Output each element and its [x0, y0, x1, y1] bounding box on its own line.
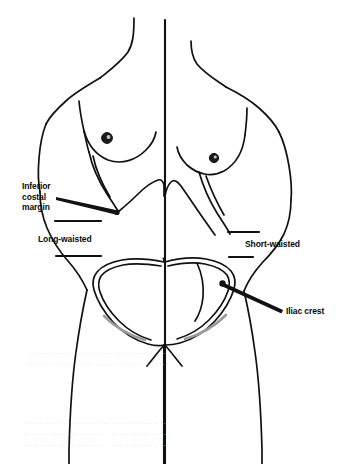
- right-shoulder-outline: [226, 87, 279, 132]
- pelvis-right-inner: [168, 263, 229, 339]
- ilium-curve-right: [195, 263, 203, 321]
- costal-margin-right: [165, 181, 215, 235]
- label-short-waisted: Short-waisted: [245, 239, 300, 250]
- left-breast-outline: [84, 131, 156, 162]
- figure-page: Inferior costal margin Long-waisted Shor…: [0, 0, 346, 464]
- neck-left-outline: [100, 18, 134, 78]
- left-armpit: [79, 101, 84, 131]
- pelvis-bottom-shade-right: [185, 315, 226, 339]
- costal-margin-left: [118, 180, 164, 212]
- bleed-through-text-upper: ·· ···· ·· ···· ····· ·· ··· ···· ··· ··…: [24, 349, 175, 371]
- label-inferior-costal-margin: Inferior costal margin: [22, 181, 50, 213]
- neck-right-outline: [191, 41, 226, 87]
- left-nipple-highlight: [107, 135, 111, 139]
- bleed-through-text-lower: ··· ··· ····· ··· ·· ··· ···· ··· ·· ···…: [22, 419, 172, 452]
- right-nipple-highlight: [214, 155, 217, 158]
- leader-iliac-crest-wedge: [223, 283, 284, 314]
- right-thigh-outline: [244, 291, 262, 464]
- left-shoulder-outline: [46, 78, 100, 124]
- iliac-crest-point: [219, 280, 225, 286]
- right-armpit: [245, 108, 247, 135]
- torso-diagram: [0, 0, 346, 464]
- pelvis-left-inner: [99, 264, 161, 340]
- right-ribline: [199, 172, 230, 234]
- leader-inferior-costal-margin-wedge: [56, 197, 116, 215]
- leader-iliac-crest: [219, 280, 283, 313]
- right-arm-outer: [279, 132, 291, 200]
- label-long-waisted: Long-waisted: [38, 234, 92, 245]
- left-ribline-inner: [93, 156, 110, 197]
- inferior-costal-margin-point: [114, 210, 119, 215]
- label-iliac-crest: Iliac crest: [286, 306, 324, 317]
- nipple-group: [102, 133, 219, 163]
